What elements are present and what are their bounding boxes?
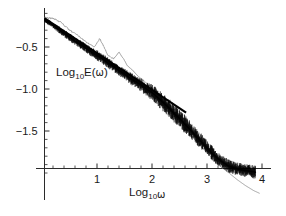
x-tick-label: 3 [204,173,210,185]
x-axis-label-main: Log [129,186,148,198]
y-axis-label-tail: E( [84,66,96,78]
x-axis-label-omega: ω [157,189,165,200]
y-tick-label: −0.5 [16,41,38,53]
y-axis-label-main: Log [56,66,75,78]
y-axis-label-omega: ω [96,67,104,78]
y-tick-label: −1.5 [16,125,38,137]
figure-panel: 1234 −0.5−1.0−1.5 Log10E(ω) Log10ω [0,0,286,216]
x-tick-label: 4 [259,173,265,185]
x-tick-label: 1 [94,173,100,185]
x-tick-label: 2 [149,173,155,185]
y-tick-label: −1.0 [16,83,38,95]
y-axis-label-close: ) [104,66,108,78]
spectrum-plot: 1234 −0.5−1.0−1.5 Log10E(ω) Log10ω [0,0,286,216]
